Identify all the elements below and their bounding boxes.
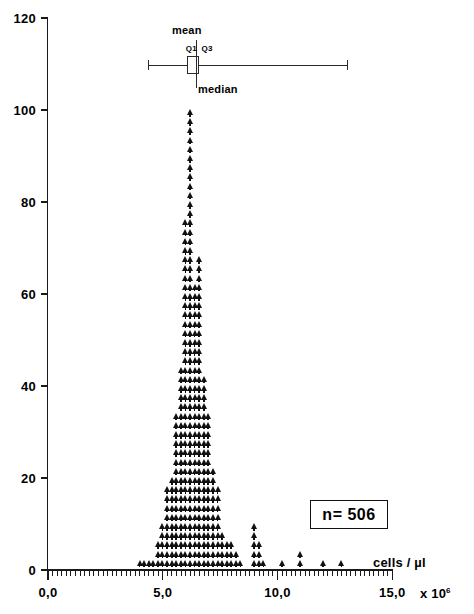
x-minor-tick [98,571,99,576]
x-minor-tick [57,571,58,576]
data-marker [187,256,193,262]
boxplot-median-label: median [198,84,238,95]
data-marker [187,183,193,189]
data-marker [187,192,193,198]
x-minor-tick [291,571,292,576]
y-tick-label: 120 [2,12,36,25]
data-marker [201,394,207,400]
x-minor-tick [208,571,209,576]
data-marker [196,256,202,262]
x-minor-tick [190,571,191,576]
data-marker [196,321,202,327]
x-minor-tick [364,571,365,576]
x-major-tick [392,571,393,580]
y-tick [41,477,48,478]
data-marker [187,146,193,152]
x-minor-tick [240,571,241,576]
y-tick-label: 80 [2,196,36,209]
sample-size-badge: n= 506 [310,500,388,529]
x-minor-tick [369,571,370,576]
x-minor-tick [268,571,269,576]
data-marker [196,311,202,317]
x-minor-tick [337,571,338,576]
data-marker [256,541,262,547]
x-minor-tick [286,571,287,576]
x-minor-tick [204,571,205,576]
data-marker [251,523,257,529]
x-minor-tick [176,571,177,576]
data-marker [215,505,221,511]
data-marker [201,376,207,382]
data-marker [196,367,202,373]
x-tick-label: 10,0 [253,586,303,599]
x-minor-tick [272,571,273,576]
x-tick-label: 0,0 [23,586,73,599]
data-marker [196,275,202,281]
x-minor-tick [300,571,301,576]
x-minor-tick [185,571,186,576]
x-minor-tick [236,571,237,576]
x-minor-tick [66,571,67,576]
x-tick-label: 15,0 [367,586,417,599]
x-minor-tick [360,571,361,576]
boxplot-upper-whisker-cap [347,60,348,70]
x-minor-tick [158,571,159,576]
data-marker [187,219,193,225]
x-minor-tick [314,571,315,576]
data-marker [297,551,303,557]
data-marker [187,118,193,124]
y-tick-label: 20 [2,472,36,485]
x-minor-tick [282,571,283,576]
data-marker [187,275,193,281]
boxplot-q3-label: Q3 [201,45,212,53]
data-marker [187,201,193,207]
x-minor-tick [93,571,94,576]
data-marker [205,449,211,455]
x-minor-tick [217,571,218,576]
data-marker [187,247,193,253]
x-minor-tick [135,571,136,576]
x-minor-tick [231,571,232,576]
data-marker [187,155,193,161]
x-minor-tick [309,571,310,576]
x-minor-tick [130,571,131,576]
x-minor-tick [181,571,182,576]
x-minor-tick [387,571,388,576]
x-minor-tick [355,571,356,576]
data-marker [196,357,202,363]
x-minor-tick [254,571,255,576]
data-marker [196,348,202,354]
x-minor-tick [378,571,379,576]
y-tick-label: 60 [2,288,36,301]
data-marker [260,560,266,566]
x-minor-tick [144,571,145,576]
x-minor-tick [153,571,154,576]
x-minor-tick [70,571,71,576]
chart-canvas: 020406080100120 0,05,010,015,0 mean medi… [0,0,474,614]
x-minor-tick [61,571,62,576]
data-marker [196,302,202,308]
x-minor-tick [346,571,347,576]
multiplier-text: x 10 [420,586,446,601]
x-axis-multiplier-label: x 106 [420,586,451,601]
y-tick-label: 0 [2,564,36,577]
data-marker [219,532,225,538]
x-tick-label: 5,0 [138,586,188,599]
x-minor-tick [194,571,195,576]
y-tick [41,109,48,110]
data-marker [187,164,193,170]
x-minor-tick [171,571,172,576]
x-minor-tick [259,571,260,576]
data-marker [237,560,243,566]
x-minor-tick [84,571,85,576]
x-major-tick [162,571,163,580]
data-marker [210,468,216,474]
data-marker [228,541,234,547]
x-minor-tick [107,571,108,576]
data-marker [201,385,207,391]
boxplot-lower-whisker-cap [148,60,149,70]
data-marker [320,560,326,566]
data-marker [256,551,262,557]
x-minor-tick [383,571,384,576]
data-marker [215,514,221,520]
